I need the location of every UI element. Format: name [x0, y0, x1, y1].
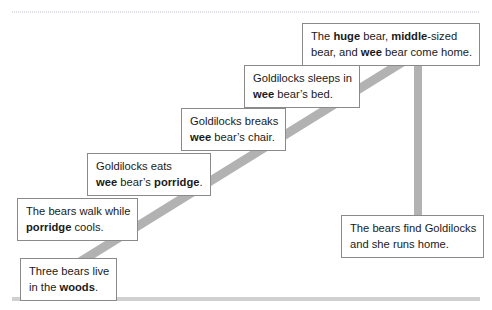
emphasis-text: wee: [190, 131, 211, 143]
plain-text: bear,: [360, 30, 391, 42]
callout-line: The bears walk while: [26, 204, 130, 220]
plain-text: Three bears live: [29, 265, 109, 277]
plain-text: Goldilocks sleeps in: [253, 72, 352, 84]
page-rule-top-decoration: [12, 11, 480, 13]
callout-line: Goldilocks sleeps in: [253, 71, 352, 87]
plain-text: in the: [29, 281, 59, 293]
callout-line: and she runs home.: [350, 237, 476, 253]
plain-text: .: [95, 281, 98, 293]
plain-text: -sized: [427, 30, 457, 42]
callout-box-goldilocks-eats-porridge: Goldilocks eatswee bear’s porridge.: [87, 153, 211, 196]
plain-text: bear’s chair.: [211, 131, 275, 143]
callout-box-bears-walk-porridge-cools: The bears walk whileporridge cools.: [17, 198, 138, 241]
plain-text: bear’s bed.: [274, 88, 333, 100]
emphasis-text: porridge: [154, 176, 199, 188]
callout-line: The bears find Goldilocks: [350, 221, 476, 237]
emphasis-text: huge: [333, 30, 360, 42]
plain-text: Goldilocks breaks: [190, 115, 278, 127]
emphasis-text: wee: [96, 176, 117, 188]
emphasis-text: wee: [253, 88, 274, 100]
callout-line: The huge bear, middle-sized: [311, 29, 472, 45]
plain-text: cools.: [71, 221, 103, 233]
plain-text: bear’s: [117, 176, 154, 188]
callout-line: porridge cools.: [26, 220, 130, 236]
callout-box-bears-come-home: The huge bear, middle-sizedbear, and wee…: [302, 23, 480, 66]
emphasis-text: middle: [391, 30, 427, 42]
emphasis-text: woods: [59, 281, 94, 293]
callout-line: wee bear’s bed.: [253, 87, 352, 103]
plain-text: bear come home.: [382, 46, 472, 58]
callout-line: Goldilocks breaks: [190, 114, 278, 130]
emphasis-text: porridge: [26, 221, 71, 233]
callout-line: wee bear’s porridge.: [96, 175, 203, 191]
callout-line: wee bear’s chair.: [190, 130, 278, 146]
plain-text: and she runs home.: [350, 238, 449, 250]
callout-line: in the woods.: [29, 280, 109, 296]
plain-text: The bears find Goldilocks: [350, 222, 476, 234]
callout-line: Three bears live: [29, 264, 109, 280]
vertical-drop-stroke: [414, 52, 422, 215]
story-sequence-diagram: The huge bear, middle-sizedbear, and wee…: [0, 0, 492, 310]
callout-box-three-bears-live-in-woods: Three bears livein the woods.: [20, 258, 117, 301]
plain-text: Goldilocks eats: [96, 160, 172, 172]
callout-box-goldilocks-sleeps: Goldilocks sleeps inwee bear’s bed.: [244, 65, 360, 108]
callout-box-bears-find-goldilocks: The bears find Goldilocksand she runs ho…: [341, 215, 484, 258]
callout-box-goldilocks-breaks-chair: Goldilocks breakswee bear’s chair.: [181, 108, 286, 151]
plain-text: bear, and: [311, 46, 361, 58]
callout-line: bear, and wee bear come home.: [311, 45, 472, 61]
plain-text: The: [311, 30, 333, 42]
plain-text: .: [199, 176, 202, 188]
plain-text: The bears walk while: [26, 205, 130, 217]
emphasis-text: wee: [361, 46, 382, 58]
callout-line: Goldilocks eats: [96, 159, 203, 175]
